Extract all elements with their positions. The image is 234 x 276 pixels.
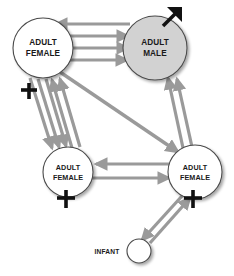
node-label-adult-male-line2: MALE xyxy=(143,49,167,58)
node-label-infant: INFANT xyxy=(94,248,119,255)
edge-female-bottomright-infant xyxy=(142,196,190,243)
diagram-canvas: ADULT FEMALE ADULT MALE ADULT xyxy=(0,0,234,276)
node-label-adult-female-top-left-line1: ADULT xyxy=(29,38,57,47)
node-label-adult-male-line1: ADULT xyxy=(141,38,169,47)
node-adult-male-top-right[interactable] xyxy=(123,16,187,80)
interaction-network-svg: ADULT FEMALE ADULT MALE ADULT xyxy=(0,0,234,276)
node-label-adult-female-bottom-right-line2: FEMALE xyxy=(180,173,210,182)
edge-female-bottomright-to-male xyxy=(168,78,192,148)
node-label-adult-female-bottom-right-line1: ADULT xyxy=(183,163,208,172)
node-label-adult-female-top-left-line2: FEMALE xyxy=(26,49,61,58)
node-label-adult-female-bottom-left-line1: ADULT xyxy=(56,163,81,172)
node-label-adult-female-bottom-left-line2: FEMALE xyxy=(53,173,83,182)
edge-bundle-topleft-bottomleft xyxy=(30,78,80,148)
node-infant[interactable] xyxy=(127,239,151,263)
node-adult-female-top-left[interactable] xyxy=(13,18,73,78)
